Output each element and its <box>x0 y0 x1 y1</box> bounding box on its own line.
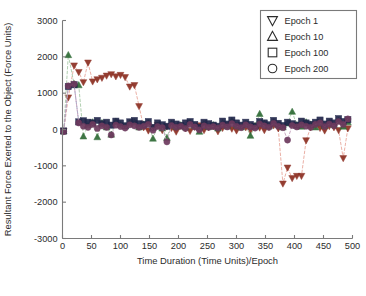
marker-down-triangle <box>75 69 82 75</box>
marker-down-triangle <box>289 176 296 182</box>
marker-circle <box>71 81 77 87</box>
marker-circle <box>145 121 151 127</box>
y-tick-label: -2000 <box>34 197 58 207</box>
x-tick-label: 200 <box>171 241 186 251</box>
y-tick-label: 1000 <box>37 88 57 98</box>
plot-canvas: 050100150200250300350400450500-3000-2000… <box>0 0 366 296</box>
legend-label: Epoch 200 <box>285 64 329 74</box>
legend: Epoch 1Epoch 10Epoch 100Epoch 200 <box>261 11 357 79</box>
marker-circle <box>164 139 170 145</box>
marker-down-triangle <box>284 165 291 171</box>
marker-down-triangle <box>89 79 96 85</box>
x-tick-label: 500 <box>345 241 360 251</box>
legend-label: Epoch 1 <box>285 16 319 26</box>
marker-down-triangle <box>279 181 286 187</box>
x-tick-label: 0 <box>60 241 65 251</box>
x-tick-label: 400 <box>287 241 302 251</box>
x-axis-title: Time Duration (Time Units)/Epoch <box>137 255 278 266</box>
marker-circle <box>345 116 351 122</box>
x-tick-label: 250 <box>200 241 215 251</box>
marker-up-triangle <box>80 133 87 139</box>
y-tick-label: -1000 <box>34 161 58 171</box>
series-epoch-200 <box>61 81 351 145</box>
y-tick-label: 2000 <box>37 52 57 62</box>
chart-figure: 050100150200250300350400450500-3000-2000… <box>0 0 366 296</box>
marker-down-triangle <box>303 138 310 144</box>
marker-circle <box>340 121 346 127</box>
marker-down-triangle <box>298 173 305 179</box>
series-line <box>64 84 348 142</box>
y-tick-label: 0 <box>52 125 57 135</box>
marker-circle <box>284 137 290 143</box>
legend-label: Epoch 100 <box>285 48 329 58</box>
marker-up-triangle <box>247 132 254 138</box>
marker-down-triangle <box>85 60 92 66</box>
x-tick-label: 350 <box>258 241 273 251</box>
x-tick-label: 450 <box>316 241 331 251</box>
marker-down-triangle <box>340 156 347 162</box>
marker-down-triangle <box>136 104 143 110</box>
x-tick-label: 150 <box>142 241 157 251</box>
x-tick-label: 100 <box>113 241 128 251</box>
marker-up-triangle <box>256 110 263 116</box>
marker-down-triangle <box>80 80 87 86</box>
marker-up-triangle <box>150 135 157 141</box>
y-axis-title: Resultant Force Exerted to the Object (F… <box>2 23 13 237</box>
x-tick-label: 300 <box>229 241 244 251</box>
x-tick-label: 50 <box>86 241 96 251</box>
marker-circle <box>108 132 114 138</box>
legend-label: Epoch 10 <box>285 32 324 42</box>
marker-down-triangle <box>122 75 129 81</box>
marker-up-triangle <box>94 134 101 140</box>
y-tick-label: -3000 <box>34 234 58 244</box>
marker-up-triangle <box>289 108 296 114</box>
marker-circle <box>65 83 71 89</box>
y-tick-label: 3000 <box>37 16 57 26</box>
marker-circle <box>280 125 286 131</box>
marker-circle <box>159 125 165 131</box>
marker-circle <box>103 124 109 130</box>
